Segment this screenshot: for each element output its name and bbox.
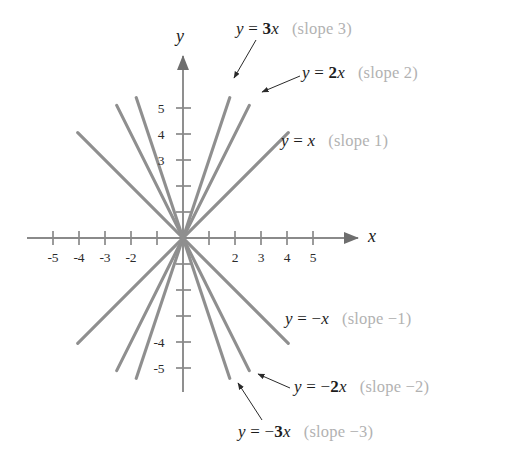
y-tick-label-3: 3 bbox=[152, 153, 170, 169]
leader-line-neg-2x bbox=[258, 374, 290, 388]
annotation-y-3x: y = 3x(slope 3) bbox=[236, 20, 352, 38]
equation-label-x: y = x bbox=[281, 131, 315, 150]
equation-label-2x: y = 2x bbox=[302, 63, 345, 82]
annotation-y-neg-x: y = −x(slope −1) bbox=[285, 310, 411, 328]
x-tick-label-2: 2 bbox=[226, 250, 244, 266]
x-tick-label--3: -3 bbox=[95, 250, 115, 266]
x-tick-label-3: 3 bbox=[252, 250, 270, 266]
annotation-y-neg-2x: y = −2x(slope −2) bbox=[294, 378, 429, 396]
coordinate-plane-svg bbox=[0, 0, 516, 467]
y-tick-label-4: 4 bbox=[152, 127, 170, 143]
slope-note-2x: (slope 2) bbox=[358, 63, 418, 82]
slope-note-neg-2x: (slope −2) bbox=[360, 377, 430, 396]
annotation-y-x: y = x(slope 1) bbox=[281, 132, 388, 150]
annotation-y-neg-3x: y = −3x(slope −3) bbox=[238, 423, 373, 441]
equation-label-neg-3x: y = −3x bbox=[238, 422, 291, 441]
axis-lines bbox=[27, 56, 358, 392]
slope-note-x: (slope 1) bbox=[328, 131, 388, 150]
y-tick-label--4: -4 bbox=[148, 335, 170, 351]
equation-label-neg-x: y = −x bbox=[285, 309, 329, 328]
y-axis-label: y bbox=[176, 26, 184, 47]
x-tick-label--4: -4 bbox=[69, 250, 89, 266]
slope-note-neg-x: (slope −1) bbox=[342, 309, 412, 328]
slope-note-neg-3x: (slope −3) bbox=[304, 422, 374, 441]
equation-label-3x: y = 3x bbox=[236, 19, 279, 38]
x-axis-label: x bbox=[368, 226, 376, 247]
annotation-y-2x: y = 2x(slope 2) bbox=[302, 64, 418, 82]
leader-line-neg-3x bbox=[238, 383, 262, 420]
y-tick-label--5: -5 bbox=[148, 361, 170, 377]
y-tick-label-5: 5 bbox=[152, 101, 170, 117]
slope-note-3x: (slope 3) bbox=[292, 19, 352, 38]
slope-graph-figure: x y -5 -4 -3 -2 2 3 4 5 5 4 3 -4 -5 y = … bbox=[0, 0, 516, 467]
x-tick-label-4: 4 bbox=[278, 250, 296, 266]
leader-line-3x bbox=[234, 40, 256, 78]
x-tick-label-5: 5 bbox=[304, 250, 322, 266]
x-tick-label--2: -2 bbox=[121, 250, 141, 266]
equation-label-neg-2x: y = −2x bbox=[294, 377, 347, 396]
leader-line-2x bbox=[262, 76, 300, 92]
x-tick-label--5: -5 bbox=[43, 250, 63, 266]
